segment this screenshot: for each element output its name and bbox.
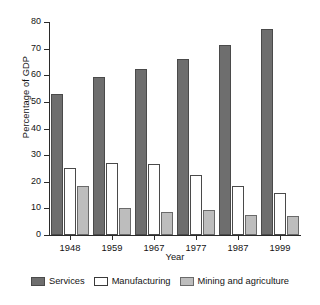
legend-label: Services (49, 276, 85, 286)
legend-item-manufacturing[interactable]: Manufacturing (94, 276, 171, 286)
bar-chart-figure: Percentage of GDP 01020304050607080 1948… (0, 0, 320, 305)
bar-services-1948 (51, 94, 64, 235)
x-axis-tick (112, 236, 113, 240)
legend-swatch-icon (31, 277, 45, 286)
x-axis-line (49, 235, 301, 236)
y-axis-tick-label: 0 (36, 229, 41, 239)
legend-item-mining-and-agriculture[interactable]: Mining and agriculture (180, 276, 289, 286)
y-axis-tick-label: 70 (31, 43, 41, 53)
bar-services-1967 (135, 69, 148, 235)
bar-mining-and-agriculture-1999 (287, 216, 300, 235)
y-axis-title: Percentage of GDP (21, 27, 31, 167)
y-axis-tick: 50 (44, 102, 49, 103)
bar-mining-and-agriculture-1948 (77, 186, 90, 235)
y-axis-tick: 60 (44, 75, 49, 76)
legend-swatch-icon (94, 277, 108, 286)
x-axis-tick (238, 236, 239, 240)
bar-manufacturing-1967 (148, 164, 161, 235)
y-axis-tick: 10 (44, 208, 49, 209)
x-axis-tick (196, 236, 197, 240)
y-axis-tick-label: 20 (31, 176, 41, 186)
bar-services-1959 (93, 77, 106, 235)
bar-manufacturing-1948 (64, 168, 77, 235)
bar-manufacturing-1987 (232, 186, 245, 235)
legend-swatch-icon (180, 277, 194, 286)
x-axis-tick (154, 236, 155, 240)
bar-manufacturing-1977 (190, 175, 203, 235)
y-axis-tick: 40 (44, 129, 49, 130)
legend-item-services[interactable]: Services (31, 276, 85, 286)
x-axis-title: Year (49, 252, 301, 262)
bar-mining-and-agriculture-1967 (161, 212, 174, 235)
bar-manufacturing-1999 (274, 193, 287, 235)
y-axis-tick-label: 80 (31, 16, 41, 26)
y-axis-tick: 80 (44, 22, 49, 23)
bar-mining-and-agriculture-1959 (119, 208, 132, 235)
bar-services-1999 (261, 29, 274, 235)
legend-label: Mining and agriculture (198, 276, 289, 286)
bar-services-1987 (219, 45, 232, 235)
y-axis-tick: 0 (44, 235, 49, 236)
plot-area: 01020304050607080 1948195919671977198719… (49, 22, 301, 236)
y-axis-tick-label: 60 (31, 69, 41, 79)
y-axis-tick: 70 (44, 49, 49, 50)
bar-mining-and-agriculture-1987 (245, 215, 258, 235)
y-axis-tick-label: 50 (31, 96, 41, 106)
chart-legend: ServicesManufacturingMining and agricult… (0, 276, 320, 286)
bar-services-1977 (177, 59, 190, 235)
legend-label: Manufacturing (112, 276, 171, 286)
y-axis-tick: 30 (44, 155, 49, 156)
bar-manufacturing-1959 (106, 163, 119, 235)
y-axis-tick-label: 10 (31, 202, 41, 212)
y-axis-tick: 20 (44, 182, 49, 183)
y-axis-tick-label: 40 (31, 123, 41, 133)
y-axis-tick-label: 30 (31, 149, 41, 159)
bar-mining-and-agriculture-1977 (203, 210, 216, 235)
x-axis-tick (280, 236, 281, 240)
x-axis-tick (70, 236, 71, 240)
